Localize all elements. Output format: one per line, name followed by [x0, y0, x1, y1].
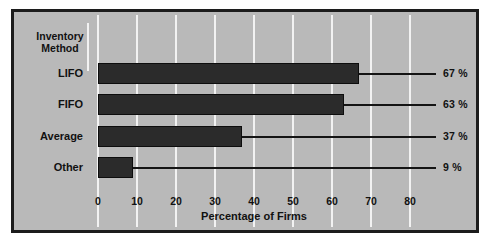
- x-tick-label: 70: [356, 195, 386, 207]
- value-label-lifo: 67 %: [443, 67, 473, 79]
- bar-average[interactable]: [98, 126, 242, 147]
- category-label-other: Other: [16, 161, 83, 173]
- tick-mark: [136, 182, 138, 191]
- tick-mark: [253, 182, 255, 191]
- category-label-fifo: FIFO: [16, 98, 83, 110]
- category-label-average: Average: [16, 130, 83, 142]
- value-leader-line: [133, 167, 436, 169]
- bar-other[interactable]: [98, 157, 133, 178]
- value-leader-line: [344, 104, 436, 106]
- x-tick-label: 30: [200, 195, 230, 207]
- tick-mark: [292, 182, 294, 191]
- legend-title-line: Inventory: [33, 31, 87, 43]
- value-label-average: 37 %: [443, 130, 473, 142]
- tick-mark: [97, 182, 99, 191]
- x-tick-label: 10: [122, 195, 152, 207]
- chart-frame: InventoryMethod 67 %63 %37 %9 % LIFOFIFO…: [11, 9, 479, 233]
- value-label-other: 9 %: [443, 161, 473, 173]
- x-tick-label: 40: [239, 195, 269, 207]
- tick-mark: [214, 182, 216, 191]
- bar-lifo[interactable]: [98, 63, 359, 84]
- value-label-fifo: 63 %: [443, 98, 473, 110]
- x-tick-label: 20: [161, 195, 191, 207]
- legend-title-line: Method: [33, 43, 87, 55]
- x-tick-label: 50: [278, 195, 308, 207]
- x-tick-label: 0: [83, 195, 113, 207]
- legend-box: InventoryMethod: [27, 23, 89, 71]
- tick-mark: [370, 182, 372, 191]
- tick-mark: [409, 182, 411, 191]
- chart-figure: InventoryMethod 67 %63 %37 %9 % LIFOFIFO…: [0, 0, 493, 246]
- category-label-lifo: LIFO: [16, 67, 83, 79]
- x-axis-title: Percentage of Firms: [98, 210, 410, 222]
- x-tick-label: 60: [317, 195, 347, 207]
- value-leader-line: [242, 136, 436, 138]
- legend-title: InventoryMethod: [33, 31, 87, 54]
- tick-mark: [331, 182, 333, 191]
- x-tick-label: 80: [395, 195, 425, 207]
- tick-mark: [175, 182, 177, 191]
- value-leader-line: [359, 73, 436, 75]
- bar-fifo[interactable]: [98, 94, 344, 115]
